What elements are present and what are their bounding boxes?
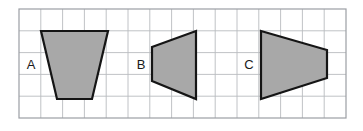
shapes-layer <box>41 31 327 99</box>
figure-container: ABC <box>0 0 363 131</box>
shapes-diagram: ABC <box>0 0 363 131</box>
shape-a-label: A <box>27 57 36 72</box>
shape-c-label: C <box>244 57 253 72</box>
shape-b-label: B <box>137 57 146 72</box>
